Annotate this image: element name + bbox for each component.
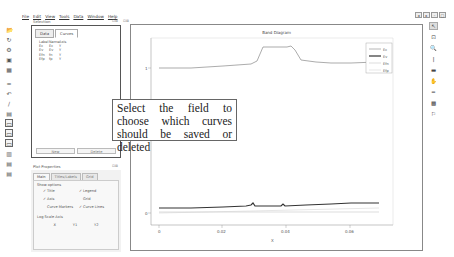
maximize-icon[interactable]: □ (439, 12, 446, 18)
new-button[interactable]: New (36, 148, 75, 154)
show-options-label: Show options (37, 183, 115, 187)
undo-icon[interactable]: ↶ (5, 89, 13, 97)
settings-icon[interactable]: ⚙ (5, 45, 13, 53)
log-y1-toggle[interactable]: Y1 (73, 223, 77, 227)
curve-markers-checkbox[interactable]: Curve Markers (43, 205, 79, 209)
zoom-icon[interactable]: 🔍 (429, 44, 438, 52)
svg-text:0: 0 (145, 211, 148, 216)
legend-checkbox[interactable]: ✓Legend (79, 189, 115, 193)
tab-curves[interactable]: Curves (55, 29, 78, 38)
pan-icon[interactable]: ✋ (429, 77, 438, 85)
menu-data[interactable]: Data (73, 14, 83, 19)
plot-properties-panel: Main Titles/Labels Grid Show options ✓Ti… (31, 170, 121, 252)
chart-legend: Ec Ev Efn Efp (366, 43, 392, 73)
fit-icon[interactable]: ⊡ (429, 33, 438, 41)
show-options: ✓Title ✓Legend ✓Axis Grid Curve Markers … (37, 189, 115, 209)
save-icon[interactable]: ▣ (5, 55, 13, 63)
selection-panel-title: Selection (33, 19, 51, 24)
image-icon[interactable]: ▩ (429, 99, 438, 107)
plot-properties-title: Plot Properties (33, 164, 61, 169)
open-folder-icon[interactable]: 📂 (5, 25, 13, 33)
log-scale-label: Log Scale Axis (37, 215, 115, 219)
panel-float-close-icon[interactable]: ⊡⊠ (112, 19, 118, 23)
vertical-line-icon[interactable]: ǀ (429, 55, 438, 63)
panel-1-icon[interactable]: ▭ (5, 119, 13, 127)
selection-panel: Data Curves Label Name Axis Ec Ec Y Ev E… (31, 25, 121, 158)
svg-text:0: 0 (158, 229, 161, 234)
selection-tabs: Data Curves (35, 29, 120, 38)
annotation-callout: Select the field to choose which curves … (112, 99, 237, 141)
grid-icon[interactable]: ▦ (5, 65, 13, 73)
svg-text:0.06: 0.06 (345, 229, 354, 234)
svg-text:Efn: Efn (383, 62, 389, 66)
delete-button[interactable]: Delete (77, 148, 116, 154)
panel-2-icon[interactable]: ▭ (5, 129, 13, 137)
left-toolbar: 📂 ↻ ⚙ ▣ ▦ = ↶ / ▤ ▭ ▭ ▭ ▥ ▤ ▤ (5, 25, 17, 177)
curves-table: Label Name Axis Ec Ec Y Ev Ev Y Efn fn Y… (39, 40, 67, 61)
plot-properties-body: Show options ✓Title ✓Legend ✓Axis Grid C… (33, 180, 119, 250)
equals-icon[interactable]: = (5, 79, 13, 87)
flag-icon[interactable]: ⚐ (429, 110, 438, 118)
minimize-icon[interactable]: – (431, 12, 438, 18)
tab-data[interactable]: Data (35, 29, 54, 38)
panel-float-close-icon[interactable]: ⊡⊠ (112, 164, 118, 168)
svg-text:Efp: Efp (383, 69, 389, 73)
svg-text:0.04: 0.04 (281, 229, 290, 234)
svg-text:0.02: 0.02 (217, 229, 226, 234)
log-x-toggle[interactable]: X (53, 223, 55, 227)
table-icon[interactable]: ▤ (5, 109, 13, 117)
menu-tools[interactable]: Tools (59, 14, 69, 19)
line-icon[interactable]: / (5, 99, 13, 107)
layers-icon[interactable]: ▤ (5, 159, 13, 167)
prev-icon[interactable]: ◂ (415, 12, 422, 18)
title-checkbox[interactable]: ✓Title (43, 189, 79, 193)
menu-file[interactable]: File (22, 14, 29, 19)
menu-window[interactable]: Window (87, 14, 104, 19)
bar-chart-icon[interactable]: ▥ (5, 149, 13, 157)
curve-lines-checkbox[interactable]: ✓Curve Lines (79, 205, 115, 209)
thick-line-icon[interactable]: ━ (429, 88, 438, 96)
grid-checkbox[interactable]: Grid (79, 197, 115, 201)
selection-buttons: New Delete (36, 148, 116, 154)
table-row[interactable]: Efp fp Y (39, 57, 67, 61)
panel-3-icon[interactable]: ▭ (5, 139, 13, 147)
pointer-icon[interactable]: ↖ (429, 22, 438, 30)
log-y2-toggle[interactable]: Y2 (94, 223, 98, 227)
svg-text:1: 1 (145, 66, 148, 71)
stack-icon[interactable]: ▤ (5, 169, 13, 177)
right-toolbar: ↖ ⊡ 🔍 ǀ ▬ ✋ ━ ▩ ⚐ (429, 22, 441, 118)
next-icon[interactable]: ▸ (423, 12, 430, 18)
refresh-icon[interactable]: ↻ (5, 35, 13, 43)
axis-checkbox[interactable]: ✓Axis (43, 197, 79, 201)
svg-text:Ev: Ev (383, 55, 387, 59)
svg-text:X: X (271, 238, 274, 243)
svg-text:Ec: Ec (383, 48, 387, 52)
ruler-icon[interactable]: ▬ (429, 66, 438, 74)
window-controls: ◂ ▸ – □ (415, 12, 446, 18)
panel-float-close-icon[interactable]: ⊡⊠ (123, 19, 129, 23)
log-scale-axes: X Y1 Y2 (37, 223, 115, 227)
